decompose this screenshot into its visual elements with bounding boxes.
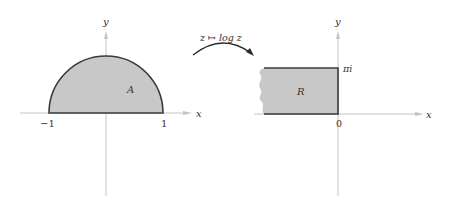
left-y-label: y: [102, 16, 109, 27]
region-a-label: A: [126, 84, 134, 95]
mapping-label: z ↦ log z: [199, 32, 243, 43]
right-y-label: y: [334, 16, 341, 27]
mapping-arrow: z ↦ log z: [193, 32, 254, 56]
right-x-axis-arrow-icon: [415, 112, 424, 116]
right-y-axis-arrow-icon: [336, 31, 340, 39]
tick-origin: 0: [336, 118, 342, 129]
left-x-axis-arrow-icon: [183, 111, 192, 115]
left-panel: y x A −1 1: [20, 16, 202, 196]
right-x-label: x: [426, 109, 432, 120]
region-r-label: R: [296, 86, 305, 97]
left-x-label: x: [196, 108, 202, 119]
left-y-axis-arrow-icon: [104, 31, 108, 39]
diagram-figure: y x A −1 1 z ↦ log z y x R πi 0: [0, 0, 452, 209]
tick-one: 1: [161, 118, 167, 129]
right-panel: y x R πi 0: [254, 16, 432, 196]
curved-arrow: [193, 43, 251, 55]
curved-arrow-head-icon: [246, 48, 254, 56]
tick-minus-one: −1: [40, 118, 55, 129]
tick-pi-i: πi: [342, 63, 352, 74]
